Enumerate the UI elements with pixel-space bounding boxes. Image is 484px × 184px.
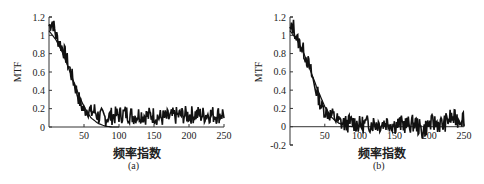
- y-tick-label: 0.6: [33, 67, 46, 78]
- x-tick-label: 250: [457, 130, 472, 141]
- x-tick-label: 100: [112, 130, 127, 141]
- y-tick-label: 1.2: [33, 12, 46, 23]
- chart-b-caption: (b): [373, 160, 385, 171]
- chart-a-caption: (a): [128, 160, 139, 171]
- y-tick-label: 0.2: [33, 103, 46, 114]
- y-axis-label: MTF: [12, 61, 23, 82]
- chart-panel-a: 00.20.40.60.811.250100150200250MTF 频率指数 …: [0, 0, 242, 184]
- x-tick-label: 50: [320, 130, 330, 141]
- x-tick-label: 150: [147, 130, 162, 141]
- x-tick-label: 50: [79, 130, 89, 141]
- y-tick-label: 1: [40, 30, 45, 41]
- y-tick-label: 0.4: [274, 85, 287, 96]
- x-tick-label: 100: [352, 130, 367, 141]
- chart-panel-b: -0.200.20.40.60.811.250100150200250MTF 频…: [242, 0, 484, 184]
- y-tick-label: 1.2: [274, 12, 287, 23]
- y-tick-label: 1: [281, 30, 286, 41]
- y-tick-label: 0: [281, 121, 286, 132]
- y-tick-label: 0.2: [274, 103, 287, 114]
- measured-mtf-trace: [290, 20, 464, 139]
- measured-mtf-trace: [49, 21, 224, 127]
- y-tick-label: 0.4: [33, 85, 46, 96]
- chart-b-xlabel: 频率指数: [358, 144, 406, 161]
- x-tick-label: 200: [182, 130, 197, 141]
- x-tick-label: 250: [217, 130, 232, 141]
- y-tick-label: 0.8: [33, 48, 46, 59]
- y-tick-label: 0: [40, 122, 45, 133]
- y-tick-label: 0.8: [274, 48, 287, 59]
- y-axis-label: MTF: [253, 61, 264, 82]
- y-tick-label: -0.2: [270, 140, 286, 151]
- chart-a-xlabel: 频率指数: [113, 144, 161, 161]
- y-tick-label: 0.6: [274, 66, 287, 77]
